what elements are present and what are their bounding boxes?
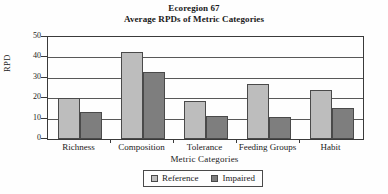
legend-label: Impaired: [222, 173, 254, 184]
y-tick-mark: [41, 118, 47, 119]
y-tick-label: 50: [19, 31, 41, 40]
gridline: [48, 57, 363, 58]
bar-impaired-composition: [143, 72, 165, 139]
chart-title: Ecoregion 67: [0, 3, 388, 14]
y-tick-mark: [41, 97, 47, 98]
bar-reference-habit: [310, 90, 332, 139]
legend-item-reference: Reference: [151, 173, 198, 184]
bar-reference-feeding-groups: [247, 84, 269, 139]
y-tick-mark: [41, 56, 47, 57]
x-tick-mark: [110, 139, 111, 143]
bar-chart-figure: Ecoregion 67 Average RPDs of Metric Cate…: [0, 0, 388, 194]
y-tick-label: 10: [19, 113, 41, 122]
y-tick-label: 0: [19, 133, 41, 142]
bar-impaired-tolerance: [206, 116, 228, 139]
bar-impaired-richness: [80, 112, 102, 139]
x-axis-title: Metric Categories: [47, 154, 362, 164]
y-tick-mark: [41, 138, 47, 139]
x-tick-mark: [299, 139, 300, 143]
y-axis-tick-labels: 50403020100: [17, 36, 41, 138]
bar-reference-tolerance: [184, 101, 206, 139]
y-tick-label: 30: [19, 72, 41, 81]
y-tick-mark: [41, 36, 47, 37]
x-tick-mark: [173, 139, 174, 143]
chart-legend: ReferenceImpaired: [143, 170, 263, 187]
chart-title-block: Ecoregion 67 Average RPDs of Metric Cate…: [0, 3, 388, 25]
x-tick-label: Habit: [321, 142, 341, 152]
bar-impaired-feeding-groups: [269, 117, 291, 139]
legend-label: Reference: [162, 173, 198, 184]
legend-swatch-icon: [211, 175, 218, 182]
x-tick-label: Richness: [62, 142, 95, 152]
y-axis-title: RPD: [2, 54, 12, 72]
plot-area: [47, 36, 364, 140]
x-tick-mark: [236, 139, 237, 143]
legend-item-impaired: Impaired: [211, 173, 254, 184]
bar-impaired-habit: [332, 108, 354, 139]
bar-reference-composition: [121, 52, 143, 139]
x-tick-label: Tolerance: [187, 142, 222, 152]
gridline: [48, 78, 363, 79]
x-tick-label: Feeding Groups: [239, 142, 297, 152]
y-tick-label: 20: [19, 92, 41, 101]
bar-reference-richness: [58, 98, 80, 139]
y-tick-mark: [41, 77, 47, 78]
legend-swatch-icon: [151, 175, 158, 182]
y-tick-label: 40: [19, 51, 41, 60]
chart-subtitle: Average RPDs of Metric Categories: [0, 14, 388, 25]
x-tick-label: Composition: [118, 142, 165, 152]
